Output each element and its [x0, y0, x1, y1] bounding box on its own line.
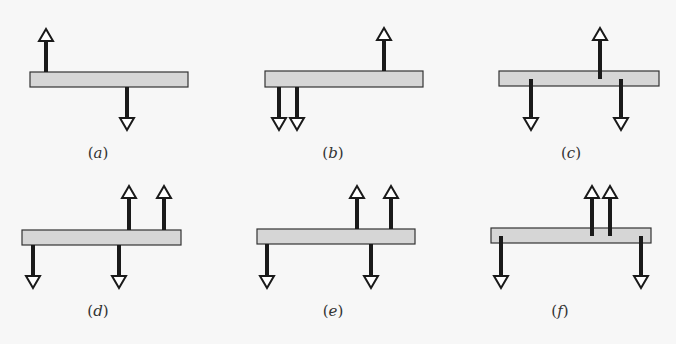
panel-d: (d): [22, 186, 181, 320]
panel-label: (b): [322, 144, 343, 162]
up-force-arrow-icon: [350, 186, 364, 229]
down-force-arrow-icon: [120, 87, 134, 130]
panel-label: (f): [551, 302, 568, 320]
down-force-arrow-icon: [290, 87, 304, 130]
panel-label: (e): [323, 302, 344, 320]
down-force-arrow-icon: [524, 79, 538, 130]
up-force-arrow-icon: [39, 29, 53, 72]
down-force-arrow-icon: [112, 245, 126, 288]
up-force-arrow-icon: [157, 186, 171, 230]
panel-a: (a): [30, 29, 188, 162]
up-force-arrow-icon: [384, 186, 398, 229]
rod: [491, 228, 651, 243]
down-force-arrow-icon: [494, 236, 508, 288]
panel-label: (d): [87, 302, 108, 320]
up-force-arrow-icon: [377, 28, 391, 71]
up-force-arrow-icon: [122, 186, 136, 230]
rod: [265, 71, 423, 87]
down-force-arrow-icon: [364, 244, 378, 288]
down-force-arrow-icon: [260, 244, 274, 288]
down-force-arrow-icon: [272, 87, 286, 130]
panel-e: (e): [257, 186, 415, 320]
panel-label: (c): [561, 144, 581, 162]
rod: [22, 230, 181, 245]
panel-c: (c): [499, 28, 659, 162]
rod: [499, 71, 659, 86]
down-force-arrow-icon: [614, 79, 628, 130]
rod: [257, 229, 415, 244]
forces-on-rod-diagram: (a) (b) (c) (d) (e) (f): [0, 0, 676, 344]
panel-label: (a): [88, 144, 109, 162]
panel-b: (b): [265, 28, 423, 162]
down-force-arrow-icon: [634, 236, 648, 288]
panel-f: (f): [491, 186, 651, 320]
down-force-arrow-icon: [26, 245, 40, 288]
rod: [30, 72, 188, 87]
